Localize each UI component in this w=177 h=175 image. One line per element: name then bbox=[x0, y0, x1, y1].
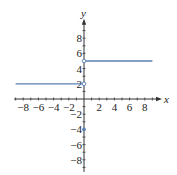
x-tick-label: 4 bbox=[112, 101, 118, 113]
x-tick-label: −4 bbox=[48, 101, 60, 113]
y-tick-label: 6 bbox=[77, 47, 83, 59]
x-tick-label: −6 bbox=[33, 101, 45, 113]
y-tick-label: −6 bbox=[70, 139, 82, 151]
x-tick-label: −8 bbox=[17, 101, 29, 113]
y-tick-label: 8 bbox=[77, 32, 83, 44]
open-point-marker bbox=[82, 59, 86, 63]
filled-point-marker bbox=[82, 128, 86, 132]
x-tick-label: 6 bbox=[127, 101, 133, 113]
y-tick-label: 4 bbox=[77, 63, 83, 75]
x-axis-arrow-icon bbox=[156, 97, 162, 101]
y-axis-arrow-icon bbox=[82, 19, 86, 25]
y-tick-label: −4 bbox=[70, 123, 82, 135]
open-point-marker bbox=[82, 82, 86, 86]
x-tick-label: 2 bbox=[96, 101, 102, 113]
x-axis-label: x bbox=[163, 93, 169, 105]
piecewise-function-graph: −8−6−4−224688642−2−4−6−8 x y bbox=[0, 0, 177, 175]
axes bbox=[14, 19, 162, 172]
y-tick-label: −8 bbox=[70, 154, 82, 166]
y-tick-label: −2 bbox=[70, 108, 82, 120]
x-tick-label: 8 bbox=[142, 101, 148, 113]
y-axis-label: y bbox=[80, 7, 86, 19]
